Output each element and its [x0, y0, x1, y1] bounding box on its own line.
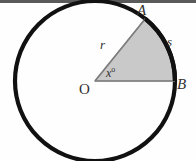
point-label-b: B [177, 77, 186, 92]
circle-sector-figure: A B O r s xo [0, 0, 196, 161]
point-label-o: O [79, 82, 90, 97]
radius-label: r [100, 38, 105, 51]
point-label-a: A [137, 3, 146, 18]
arc-length-label: s [167, 35, 172, 48]
central-angle-label: xo [106, 66, 115, 79]
geometry-diagram-canvas [0, 0, 196, 161]
degree-symbol: o [111, 65, 115, 74]
